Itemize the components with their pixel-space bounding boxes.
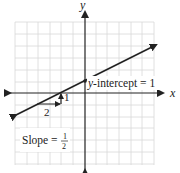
y-axis-label: y xyxy=(79,0,86,12)
slope-denominator: 2 xyxy=(62,142,66,151)
coordinate-graph: x y y-intercept = 1 2 1 Slope = 1 2 xyxy=(0,0,180,173)
y-intercept-label: y-intercept = 1 xyxy=(87,77,155,90)
x-axis-label: x xyxy=(169,86,176,100)
slope-label: Slope = xyxy=(22,134,58,147)
rise-label: 1 xyxy=(64,91,70,103)
run-label: 2 xyxy=(44,106,50,118)
y-intercept-point xyxy=(83,79,87,83)
slope-numerator: 1 xyxy=(63,132,67,141)
